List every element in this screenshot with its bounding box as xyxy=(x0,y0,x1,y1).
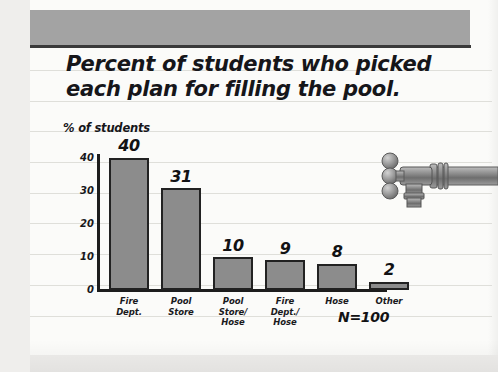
bar-group: 40 xyxy=(109,150,149,290)
x-tick-line: Dept./ xyxy=(260,307,310,318)
x-tick-line: Hose xyxy=(208,317,258,328)
bar-value-label: 2 xyxy=(369,260,409,279)
faucet-spigot-icon xyxy=(378,148,498,222)
bar-group: 8 xyxy=(317,150,357,290)
x-tick-label: Fire Dept./ Hose xyxy=(260,296,310,328)
bar[interactable] xyxy=(369,282,409,290)
x-tick-label: Pool Store xyxy=(156,296,206,317)
x-tick-line: Pool xyxy=(208,296,258,307)
bar-value-label: 9 xyxy=(265,239,305,258)
bar-value-label: 8 xyxy=(317,242,357,261)
bar[interactable] xyxy=(265,260,305,290)
bar[interactable] xyxy=(109,158,149,290)
x-tick-label: Pool Store/ Hose xyxy=(208,296,258,328)
bar-group: 10 xyxy=(213,150,253,290)
x-tick-line: Dept. xyxy=(104,307,154,318)
bar-group: 31 xyxy=(161,150,201,290)
x-tick-line: Other xyxy=(364,296,414,307)
bar-value-label: 40 xyxy=(109,136,149,155)
bar-group: 9 xyxy=(265,150,305,290)
bar[interactable] xyxy=(161,188,201,290)
sample-size-annotation: N=100 xyxy=(338,309,389,325)
worksheet-screenshot: Percent of students who picked each plan… xyxy=(0,0,498,372)
x-tick-line: Hose xyxy=(260,317,310,328)
bar[interactable] xyxy=(317,264,357,290)
x-tick-label: Other xyxy=(364,296,414,307)
x-tick-line: Store/ xyxy=(208,307,258,318)
x-tick-line: Pool xyxy=(156,296,206,307)
x-tick-line: Store xyxy=(156,307,206,318)
x-tick-label: Fire Dept. xyxy=(104,296,154,317)
x-tick-line: Hose xyxy=(312,296,362,307)
x-tick-line: Fire xyxy=(260,296,310,307)
x-tick-line: Fire xyxy=(104,296,154,307)
x-tick-label: Hose xyxy=(312,296,362,307)
bar-value-label: 10 xyxy=(213,236,253,255)
bar-value-label: 31 xyxy=(161,167,201,186)
bar[interactable] xyxy=(213,257,253,290)
